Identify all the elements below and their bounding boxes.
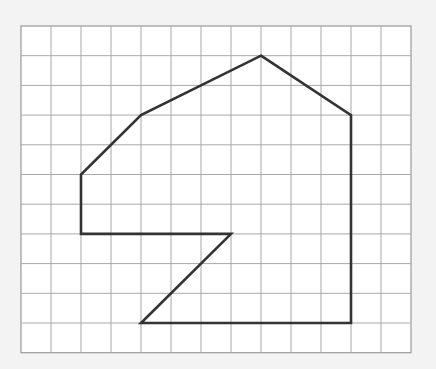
- grid-figure: [0, 0, 436, 369]
- grid-background: [21, 26, 411, 353]
